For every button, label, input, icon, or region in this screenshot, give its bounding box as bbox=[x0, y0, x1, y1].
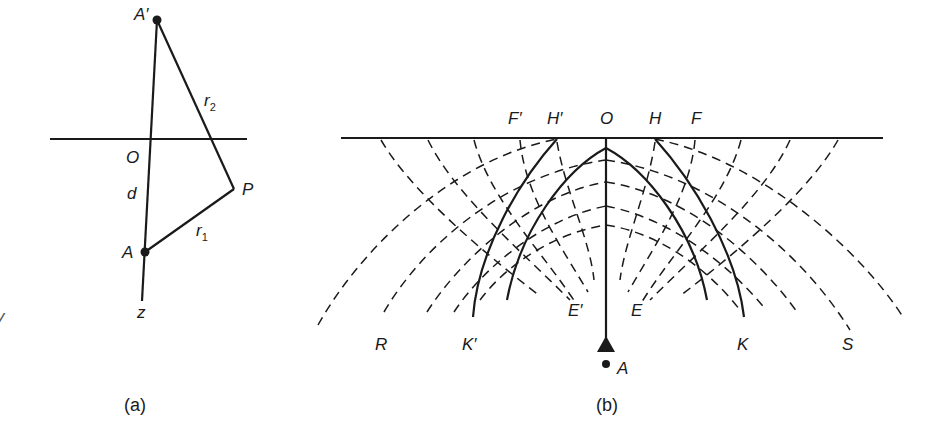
label-s: S bbox=[842, 336, 853, 353]
dashed-rise-left-4 bbox=[454, 206, 606, 312]
diagram-canvas bbox=[0, 0, 946, 447]
stray-mark: y bbox=[0, 308, 5, 325]
label-o-a: O bbox=[126, 149, 139, 166]
caption-a: (a) bbox=[124, 396, 146, 414]
outer-solid-arch-left bbox=[473, 139, 557, 317]
point-a bbox=[141, 248, 150, 257]
r2-segment bbox=[157, 20, 234, 189]
label-e: E bbox=[631, 302, 642, 319]
label-r2: r2 bbox=[204, 92, 216, 109]
label-k-prime: K′ bbox=[462, 336, 477, 353]
label-a-b: A bbox=[617, 360, 628, 377]
label-h: H bbox=[649, 110, 661, 127]
dashed-arc-right-4 bbox=[628, 140, 695, 292]
r1-text: r bbox=[196, 221, 202, 240]
label-h-prime: H′ bbox=[547, 110, 562, 127]
axis-line-a bbox=[142, 20, 157, 301]
label-o-b: O bbox=[600, 110, 613, 127]
source-triangle bbox=[597, 336, 615, 352]
dashed-fall-right-1 bbox=[655, 139, 903, 317]
r2-subscript: 2 bbox=[210, 101, 216, 113]
label-k: K bbox=[737, 336, 748, 353]
r2-text: r bbox=[204, 91, 210, 110]
figure-b-geometry bbox=[318, 138, 903, 368]
dashed-arc-right-2 bbox=[650, 140, 790, 300]
inner-solid-arch-right bbox=[606, 148, 707, 300]
label-e-prime: E′ bbox=[568, 302, 583, 319]
label-f-prime: F′ bbox=[508, 110, 522, 127]
figure-a-geometry bbox=[50, 16, 247, 302]
label-f: F bbox=[691, 110, 701, 127]
r1-segment bbox=[145, 189, 234, 252]
label-r: R bbox=[375, 336, 387, 353]
caption-b: (b) bbox=[596, 396, 618, 414]
inner-solid-arch-left bbox=[507, 148, 606, 300]
point-a-b bbox=[602, 360, 610, 368]
point-a-prime bbox=[153, 16, 162, 25]
dashed-fall-right-2 bbox=[606, 160, 850, 330]
r1-subscript: 1 bbox=[202, 231, 208, 243]
dashed-fall-right-4 bbox=[606, 206, 766, 310]
label-a: A bbox=[122, 244, 133, 261]
label-p: P bbox=[242, 181, 253, 198]
label-z: z bbox=[137, 304, 146, 321]
label-a-prime: A′ bbox=[134, 6, 149, 23]
label-d: d bbox=[127, 185, 136, 202]
label-r1: r1 bbox=[196, 222, 208, 239]
